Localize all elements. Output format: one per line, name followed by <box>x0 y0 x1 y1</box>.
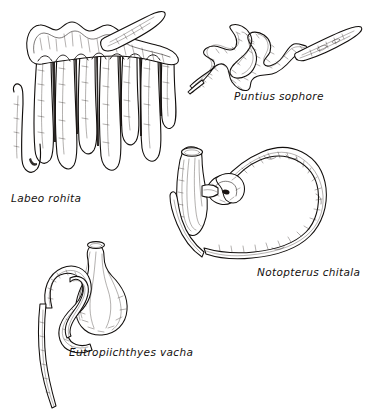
caption-puntius-sophore: Puntius sophore <box>234 90 324 102</box>
puntius-swim-bladder <box>295 26 362 60</box>
illustration-plate: Labeo rohita <box>0 0 369 414</box>
caption-labeo-rohita: Labeo rohita <box>11 192 81 204</box>
figure-labeo-rohita <box>4 8 184 194</box>
labeo-intestinal-loops <box>34 52 176 170</box>
labeo-detached-loop <box>13 84 40 172</box>
eutropi-trailing-limb <box>39 304 57 408</box>
puntius-intestine-coils <box>190 24 308 90</box>
figure-eutropiichthyes-vacha <box>26 232 168 412</box>
caption-eutropiichthyes-vacha: Eutropiichthyes vacha <box>69 346 193 358</box>
figure-puntius-sophore <box>186 22 364 96</box>
figure-notopterus-chitala <box>168 138 366 270</box>
caption-notopterus-chitala: Notopterus chitala <box>257 266 360 278</box>
